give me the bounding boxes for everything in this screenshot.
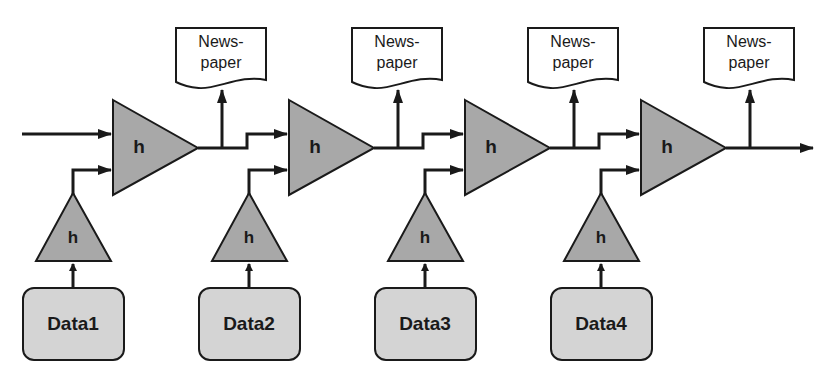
main-h-label: h xyxy=(652,136,682,158)
main-h-label: h xyxy=(300,136,330,158)
newspaper-label-line2: paper xyxy=(352,53,442,73)
feeder-arrow xyxy=(601,170,639,195)
newspaper-label-line2: paper xyxy=(528,53,618,73)
data-label: Data3 xyxy=(375,313,475,335)
feeder-arrow xyxy=(73,170,111,195)
chain-arrow xyxy=(374,134,463,148)
feeder-arrow xyxy=(425,170,463,195)
chain-arrow xyxy=(198,134,287,148)
data-label: Data1 xyxy=(23,313,123,335)
feeder-h-triangle xyxy=(388,193,463,261)
feeder-h-label: h xyxy=(234,228,264,248)
feeder-arrow xyxy=(249,170,287,195)
feeder-h-label: h xyxy=(586,228,616,248)
chain-arrow xyxy=(550,134,639,148)
feeder-h-label: h xyxy=(410,228,440,248)
newspaper-label-line2: paper xyxy=(704,53,794,73)
feeder-h-triangle xyxy=(564,193,639,261)
main-h-label: h xyxy=(124,136,154,158)
main-h-label: h xyxy=(476,136,506,158)
feeder-h-label: h xyxy=(58,228,88,248)
data-label: Data2 xyxy=(199,313,299,335)
feeder-h-triangle xyxy=(36,193,111,261)
data-label: Data4 xyxy=(551,313,651,335)
feeder-h-triangle xyxy=(212,193,287,261)
newspaper-label-line1: News- xyxy=(352,32,442,52)
newspaper-label-line1: News- xyxy=(704,32,794,52)
newspaper-label-line2: paper xyxy=(176,53,266,73)
newspaper-label-line1: News- xyxy=(528,32,618,52)
newspaper-label-line1: News- xyxy=(176,32,266,52)
